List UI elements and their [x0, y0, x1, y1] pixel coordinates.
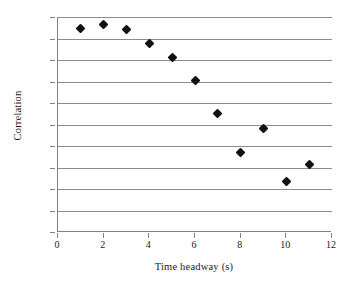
x-axis-tick-label: 12 [316, 240, 346, 250]
y-axis-tick [50, 103, 55, 104]
data-point-marker [190, 76, 200, 86]
gridline-horizontal [58, 189, 332, 190]
x-axis-tick [103, 233, 104, 238]
data-point-marker [99, 19, 109, 29]
x-axis-tick-label: 8 [225, 240, 255, 250]
x-axis-tick-label: 4 [133, 240, 163, 250]
data-point-marker [236, 147, 246, 157]
y-axis-tick [50, 17, 55, 18]
gridline-horizontal [58, 60, 332, 61]
data-point-marker [167, 53, 177, 63]
data-point-marker [122, 25, 132, 35]
x-axis-tick-label: 6 [179, 240, 209, 250]
y-axis-title: Correlation [12, 61, 23, 171]
gridline-horizontal [58, 39, 332, 40]
x-axis-tick [194, 233, 195, 238]
data-point-marker [213, 109, 223, 119]
x-axis-tick [57, 233, 58, 238]
y-axis-tick [50, 146, 55, 147]
gridline-horizontal [58, 211, 332, 212]
y-axis-tick [50, 39, 55, 40]
y-axis-tick [50, 82, 55, 83]
y-axis-tick [50, 125, 55, 126]
gridline-horizontal [58, 125, 332, 126]
x-axis-tick-label: 0 [42, 240, 72, 250]
data-point-marker [281, 176, 291, 186]
data-point-marker [144, 38, 154, 48]
y-axis-tick [50, 189, 55, 190]
data-point-marker [76, 24, 86, 34]
x-axis-title: Time headway (s) [57, 261, 331, 272]
x-axis-tick-label: 2 [88, 240, 118, 250]
plot-area [57, 17, 331, 232]
x-axis-tick [285, 233, 286, 238]
x-axis-tick-label: 10 [270, 240, 300, 250]
x-axis-tick [240, 233, 241, 238]
x-axis-tick [331, 233, 332, 238]
x-axis-tick [148, 233, 149, 238]
scatter-chart-figure: Correlation Time headway (s) 00.10.20.30… [0, 0, 351, 286]
y-axis-tick [50, 211, 55, 212]
gridline-horizontal [58, 146, 332, 147]
y-axis-tick [50, 232, 55, 233]
gridline-horizontal [58, 17, 332, 18]
gridline-horizontal [58, 168, 332, 169]
y-axis-tick [50, 60, 55, 61]
gridline-horizontal [58, 103, 332, 104]
y-axis-tick [50, 168, 55, 169]
